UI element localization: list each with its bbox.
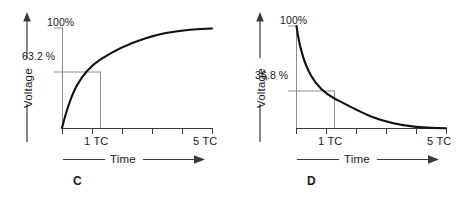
label-5tc-c: 5 TC <box>193 136 217 147</box>
chart-panel-d: 100% 36.8 % 1 TC 5 TC Voltage Time D <box>233 0 467 197</box>
label-632-percent-c: 63.2 % <box>22 51 55 62</box>
label-5tc-d: 5 TC <box>427 136 451 147</box>
charging-curve-c <box>62 29 212 129</box>
label-100-percent-c: 100% <box>47 17 74 28</box>
y-axis-label-c: Voltage <box>23 68 35 108</box>
panel-id-c: C <box>73 175 82 187</box>
x-axis-label-c: Time <box>110 154 136 166</box>
x-axis-label-d: Time <box>344 154 370 166</box>
chart-c-graphic <box>0 0 234 197</box>
chart-d-graphic <box>233 0 467 197</box>
x-axis-ticks-d <box>297 129 447 135</box>
label-1tc-d: 1 TC <box>318 136 342 147</box>
y-axis-label-d: Voltage <box>256 68 268 108</box>
discharge-curve-d <box>297 26 447 128</box>
x-axis-ticks-c <box>63 129 213 135</box>
panel-id-d: D <box>307 175 316 187</box>
chart-panel-c: 100% 63.2 % 1 TC 5 TC Voltage Time C <box>0 0 234 197</box>
label-1tc-c: 1 TC <box>84 136 108 147</box>
label-100-percent-d: 100% <box>280 15 307 26</box>
